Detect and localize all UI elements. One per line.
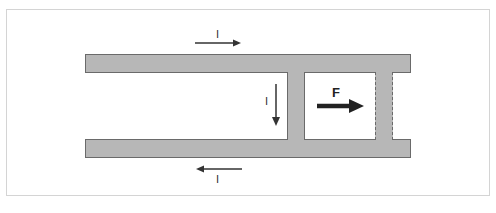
arrows-layer xyxy=(0,0,496,213)
current-rod-arrow xyxy=(272,84,280,126)
current-bottom-label: I xyxy=(216,174,219,185)
current-top-arrow xyxy=(195,40,241,47)
current-top-label: I xyxy=(216,29,219,40)
current-rod-label: I xyxy=(265,96,268,107)
force-arrow xyxy=(317,99,364,113)
current-bottom-arrow xyxy=(196,166,242,173)
force-label: F xyxy=(332,86,340,99)
